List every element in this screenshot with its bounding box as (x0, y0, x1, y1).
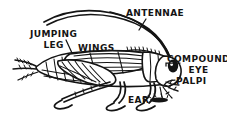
label-compound-eye-line2: EYE (167, 65, 227, 76)
label-palpi: PALPI (176, 76, 206, 86)
label-jumping-leg: JUMPING LEG (30, 29, 77, 50)
label-compound-eye: COMPOUND EYE (167, 54, 227, 75)
grasshopper-anatomy-diagram: ANTENNAE JUMPING LEG WINGS COMPOUND EYE … (0, 0, 227, 120)
abdomen-cerci (13, 58, 38, 80)
label-antennae: ANTENNAE (126, 8, 184, 18)
label-ear: EAR (128, 95, 149, 105)
label-jumping-leg-line1: JUMPING (30, 29, 77, 40)
label-compound-eye-line1: COMPOUND (167, 54, 227, 65)
label-jumping-leg-line2: LEG (30, 40, 77, 51)
label-wings: WINGS (78, 43, 115, 53)
